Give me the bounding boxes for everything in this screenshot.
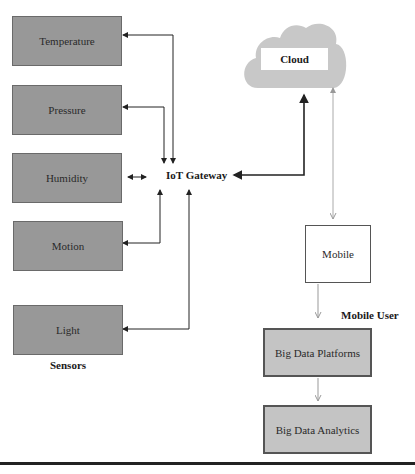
cloud-node: Cloud <box>261 48 328 70</box>
sensors-group-label: Sensors <box>50 359 86 371</box>
sensor-label: Humidity <box>46 172 88 184</box>
bottom-rule <box>0 462 415 465</box>
sensor-temperature: Temperature <box>12 16 122 66</box>
sensor-pressure: Pressure <box>12 85 122 135</box>
sensor-label: Pressure <box>48 104 85 116</box>
big-data-analytics-label: Big Data Analytics <box>276 424 360 436</box>
big-data-platforms-label: Big Data Platforms <box>275 347 360 359</box>
mobile-label: Mobile <box>322 248 354 260</box>
iot-gateway-label: IoT Gateway <box>166 169 227 181</box>
cloud-label: Cloud <box>280 53 309 65</box>
sensor-label: Light <box>56 324 80 336</box>
sensor-label: Temperature <box>39 35 94 47</box>
sensor-light: Light <box>13 305 123 355</box>
big-data-platforms-node: Big Data Platforms <box>263 328 372 377</box>
sensor-humidity: Humidity <box>12 153 122 203</box>
sensor-label: Motion <box>52 240 84 252</box>
mobile-user-label: Mobile User <box>341 309 399 321</box>
mobile-node: Mobile <box>305 225 371 283</box>
big-data-analytics-node: Big Data Analytics <box>263 405 372 454</box>
sensor-motion: Motion <box>13 221 123 271</box>
